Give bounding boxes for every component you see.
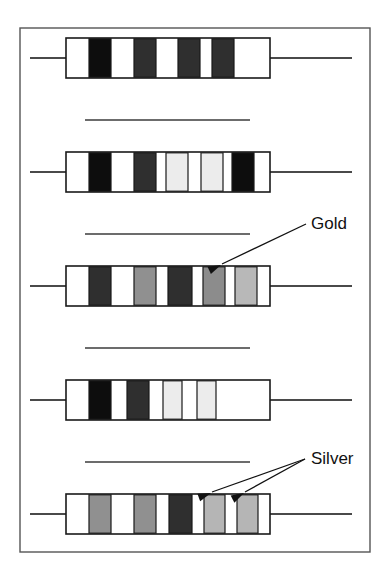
band-1 <box>89 153 111 191</box>
band-4 <box>203 267 225 305</box>
band-2 <box>134 153 156 191</box>
band-2 <box>127 381 149 419</box>
band-2 <box>134 39 156 77</box>
band-1 <box>89 495 111 533</box>
band-1 <box>89 381 111 419</box>
band-1 <box>89 39 111 77</box>
gold-annotation-label: Gold <box>311 214 347 233</box>
silver-annotation-label: Silver <box>311 449 354 468</box>
resistor-diagram: GoldSilver <box>0 0 389 577</box>
band-3 <box>166 153 188 191</box>
band-3 <box>169 495 192 533</box>
band-2 <box>134 495 156 533</box>
band-3 <box>178 39 200 77</box>
band-3 <box>168 267 192 305</box>
band-5 <box>232 153 254 191</box>
band-3 <box>163 381 182 419</box>
band-5-silver <box>237 495 258 533</box>
band-4 <box>197 381 216 419</box>
band-2 <box>134 267 156 305</box>
band-4-silver <box>204 495 225 533</box>
band-1 <box>89 267 111 305</box>
band-4 <box>212 39 234 77</box>
band-4 <box>201 153 223 191</box>
band-5-gold <box>235 267 257 305</box>
